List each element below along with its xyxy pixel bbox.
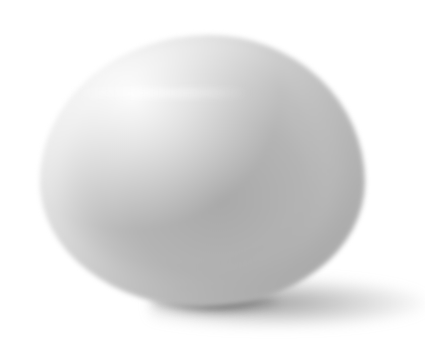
egg-highlight bbox=[70, 88, 250, 98]
egg bbox=[40, 35, 365, 307]
